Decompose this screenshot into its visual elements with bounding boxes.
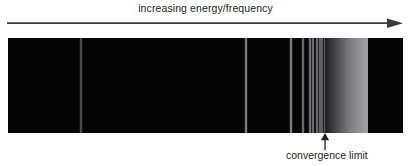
convergence-limit-label: convergence limit xyxy=(286,149,368,161)
spectral-line xyxy=(309,38,310,133)
spectral-line xyxy=(316,38,317,133)
spectral-line xyxy=(324,38,325,133)
ionisation-continuum xyxy=(325,38,368,133)
spectral-line xyxy=(290,38,292,133)
spectral-line xyxy=(312,38,313,133)
spectral-line xyxy=(80,38,82,133)
spectral-line xyxy=(302,38,304,133)
axis-label: increasing energy/frequency xyxy=(0,2,411,14)
emission-spectrum-band xyxy=(8,38,403,133)
spectral-line xyxy=(319,38,320,133)
convergence-limit-arrow-icon xyxy=(320,133,330,150)
spectral-line xyxy=(245,38,247,133)
increasing-energy-arrow-icon xyxy=(7,18,403,30)
spectral-line xyxy=(321,38,322,133)
